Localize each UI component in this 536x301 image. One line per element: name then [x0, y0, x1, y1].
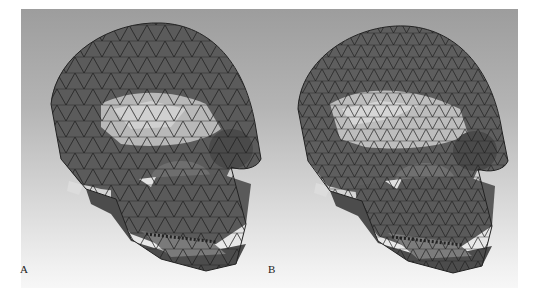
skull-mesh-b-image [270, 9, 518, 288]
panel-label-b: B [268, 263, 275, 275]
panel-a: A [21, 9, 269, 288]
panel-label-a: A [20, 263, 28, 275]
panel-b: B [270, 9, 518, 288]
skull-mesh-a-image [21, 9, 269, 288]
